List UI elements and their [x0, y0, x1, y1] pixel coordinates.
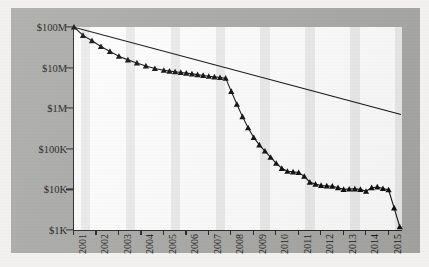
- y-axis-tick-label: $10M: [15, 62, 67, 73]
- y-axis-tick-mark: [66, 189, 73, 190]
- y-axis-tick-label: $10K: [15, 184, 67, 195]
- x-axis-tick-mark: [275, 230, 276, 235]
- chart-panel: $100M$10M$1M$100K$10K$1K 200120022003200…: [11, 8, 420, 253]
- y-axis-tick-mark: [66, 26, 73, 27]
- x-axis-tick-label: 2012: [324, 234, 335, 254]
- x-axis-tick-label: 2010: [279, 234, 290, 254]
- x-axis-tick-label: 2015: [392, 234, 403, 254]
- x-axis-tick-mark: [388, 230, 389, 235]
- x-axis-tick-label: 2001: [77, 234, 88, 254]
- x-axis-tick-mark: [140, 230, 141, 235]
- x-axis-tick-label: 2011: [302, 234, 313, 254]
- x-axis-tick-mark: [365, 230, 366, 235]
- x-axis-tick-mark: [320, 230, 321, 235]
- x-axis-tick-label: 2014: [369, 234, 380, 254]
- x-axis-tick-label: 2004: [144, 234, 155, 254]
- y-axis-tick-mark: [66, 67, 73, 68]
- y-axis-tick-mark: [66, 229, 73, 230]
- figure-container: $100M$10M$1M$100K$10K$1K 200120022003200…: [0, 0, 429, 267]
- x-axis-tick-mark: [230, 230, 231, 235]
- y-axis-tick-mark: [66, 148, 73, 149]
- x-axis-tick-label: 2013: [347, 234, 358, 254]
- x-axis-tick-label: 2005: [167, 234, 178, 254]
- x-axis-tick-label: 2003: [122, 234, 133, 254]
- x-axis-tick-label: 2009: [257, 234, 268, 254]
- trend-line-layer: [11, 8, 420, 253]
- x-axis-tick-mark: [208, 230, 209, 235]
- x-axis-tick-label: 2007: [212, 234, 223, 254]
- y-axis-tick-label: $100K: [15, 143, 67, 154]
- x-axis-tick-mark: [118, 230, 119, 235]
- x-axis-tick-mark: [343, 230, 344, 235]
- y-axis-tick-mark: [66, 108, 73, 109]
- y-axis-tick-label: $1K: [15, 225, 67, 236]
- x-axis-tick-mark: [185, 230, 186, 235]
- y-axis-tick-label: $1M: [15, 103, 67, 114]
- x-axis-tick-mark: [253, 230, 254, 235]
- x-axis-tick-mark: [95, 230, 96, 235]
- y-axis-tick-label: $100M: [15, 22, 67, 33]
- x-axis-tick-mark: [298, 230, 299, 235]
- x-axis-tick-label: 2008: [234, 234, 245, 254]
- x-axis-tick-mark: [163, 230, 164, 235]
- x-axis-tick-label: 2002: [99, 234, 110, 254]
- trend-line: [73, 27, 401, 114]
- x-axis-tick-mark: [73, 230, 74, 235]
- x-axis-tick-label: 2006: [189, 234, 200, 254]
